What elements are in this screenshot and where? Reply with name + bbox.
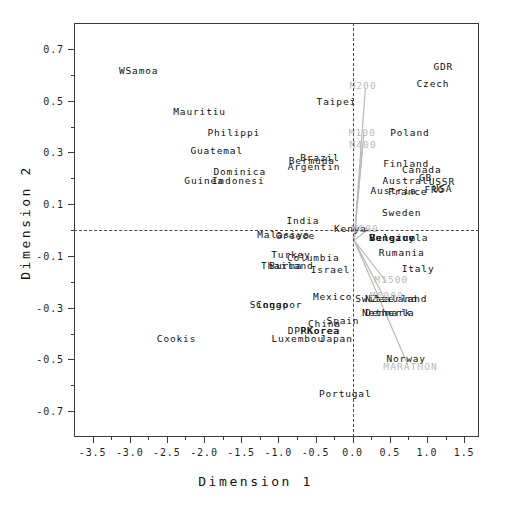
x-tick-major (316, 437, 317, 443)
x-tick-minor (223, 437, 224, 440)
point-label: Greece (276, 232, 315, 242)
x-tick-minor (334, 437, 335, 440)
x-tick-minor (371, 437, 372, 440)
x-tick-major (93, 437, 94, 443)
point-label: Czech (416, 79, 449, 89)
y-tick-major (68, 308, 74, 309)
variable-vector-label: M1500 (374, 276, 408, 286)
point-label: Mexico (313, 293, 352, 303)
x-tick-label: -3.0 (116, 447, 144, 458)
point-label: Singapor (250, 300, 303, 310)
variable-vector-label: M100 (349, 128, 376, 138)
y-tick-label: 0.7 (16, 43, 64, 54)
point-label: Indonesi (212, 176, 265, 186)
point-label: Poland (390, 128, 429, 138)
x-tick-minor (446, 437, 447, 440)
x-tick-major (464, 437, 465, 443)
x-tick-major (167, 437, 168, 443)
y-axis-title: Dimension 2 (18, 113, 33, 333)
point-label: Luxembou (271, 334, 324, 344)
y-tick-major (68, 49, 74, 50)
y-tick-major (68, 359, 74, 360)
y-tick-major (68, 256, 74, 257)
point-label: Argentin (288, 162, 341, 172)
y-tick-label: -0.7 (16, 406, 64, 417)
y-tick-major (68, 152, 74, 153)
x-tick-label: 1.0 (417, 447, 438, 458)
x-axis-title: Dimension 1 (0, 474, 511, 489)
point-label: Burma (269, 261, 302, 271)
point-label: Philippi (207, 128, 260, 138)
x-tick-minor (408, 437, 409, 440)
point-label: Rumania (379, 249, 425, 259)
variable-vector-label: M200 (349, 82, 376, 92)
y-tick-minor (71, 282, 74, 283)
x-tick-major (241, 437, 242, 443)
point-label: GDR (433, 62, 453, 72)
variable-vector-label: M5000 (370, 291, 404, 301)
x-tick-major (278, 437, 279, 443)
point-label: Israel (311, 265, 350, 275)
x-tick-major (390, 437, 391, 443)
x-tick-minor (185, 437, 186, 440)
x-tick-minor (111, 437, 112, 440)
scatter-plot-figure: -3.5-3.0-2.5-2.0-1.5-1.0-0.50.00.51.01.5… (0, 0, 511, 505)
point-label: Venezuela (369, 233, 428, 243)
point-label: Guatemal (190, 146, 243, 156)
y-tick-minor (71, 75, 74, 76)
y-tick-major (68, 101, 74, 102)
y-tick-label: 0.5 (16, 95, 64, 106)
y-tick-minor (71, 127, 74, 128)
y-tick-major (68, 204, 74, 205)
point-label: Cookis (157, 334, 196, 344)
x-tick-label: -2.5 (153, 447, 181, 458)
point-label: France (388, 188, 427, 198)
x-tick-minor (148, 437, 149, 440)
variable-vector-label: MARATHON (383, 362, 438, 372)
point-label: India (286, 216, 319, 226)
y-tick-minor (71, 178, 74, 179)
point-label: Sweden (382, 208, 421, 218)
point-label: WSamoa (119, 66, 158, 76)
y-tick-minor (71, 334, 74, 335)
point-label: USA (433, 184, 453, 194)
x-tick-label: -1.0 (265, 447, 293, 458)
point-label: Portugal (319, 390, 372, 400)
x-tick-label: -3.5 (79, 447, 107, 458)
point-label: Italy (402, 264, 435, 274)
x-tick-label: -0.5 (302, 447, 330, 458)
x-tick-label: 0.5 (379, 447, 400, 458)
y-tick-major (68, 411, 74, 412)
point-label: Netherla (362, 308, 415, 318)
x-tick-major (204, 437, 205, 443)
y-tick-label: -0.5 (16, 354, 64, 365)
y-tick-minor (71, 230, 74, 231)
y-tick-minor (71, 385, 74, 386)
variable-vector-label: M800 (352, 224, 379, 234)
x-tick-label: -1.5 (227, 447, 255, 458)
point-label: Japan (320, 334, 353, 344)
x-tick-minor (297, 437, 298, 440)
point-label: Mauritiu (173, 108, 226, 118)
x-tick-major (130, 437, 131, 443)
variable-vector-label: M400 (349, 140, 376, 150)
x-tick-minor (260, 437, 261, 440)
x-tick-label: 0.0 (342, 447, 363, 458)
x-tick-major (427, 437, 428, 443)
x-tick-major (353, 437, 354, 443)
x-tick-label: 1.5 (454, 447, 475, 458)
x-tick-label: -2.0 (190, 447, 218, 458)
point-label: Taipei (317, 97, 356, 107)
